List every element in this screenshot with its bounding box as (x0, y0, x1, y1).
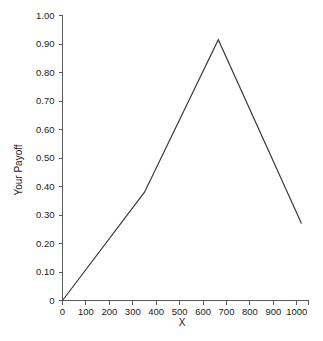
x-axis-tick-label: 300 (125, 306, 141, 317)
x-axis-tick-label: 400 (148, 306, 164, 317)
y-axis-title: Your Payoff (13, 144, 24, 195)
payoff-line (63, 40, 302, 301)
x-axis: 01002003004005006007008009001000 (60, 301, 309, 317)
chart-canvas: 00.100.200.300.400.500.600.700.800.901.0… (0, 0, 323, 341)
y-axis-tick-label: 0.10 (36, 266, 55, 277)
x-axis-tick-label: 800 (242, 306, 258, 317)
x-axis-tick-label: 200 (101, 306, 117, 317)
y-axis-tick-label: 0.90 (36, 38, 55, 49)
y-axis-tick-label: 0.80 (36, 67, 55, 78)
y-axis-tick-label: 0.60 (36, 124, 55, 135)
y-axis-tick-label: 0.40 (36, 181, 55, 192)
x-axis-tick-label: 0 (60, 306, 65, 317)
y-axis: 00.100.200.300.400.500.600.700.800.901.0… (36, 10, 63, 306)
y-axis-tick-label: 0.20 (36, 238, 55, 249)
y-axis-tick-label: 1.00 (36, 10, 55, 21)
x-axis-tick-label: 700 (219, 306, 235, 317)
payoff-chart-figure: 00.100.200.300.400.500.600.700.800.901.0… (0, 0, 323, 341)
x-axis-tick-label: 900 (265, 306, 281, 317)
data-series-group (63, 40, 302, 301)
x-axis-title: X (179, 317, 186, 328)
y-axis-tick-label: 0.70 (36, 95, 55, 106)
x-axis-tick-label: 500 (172, 306, 188, 317)
x-axis-tick-label: 100 (78, 306, 94, 317)
x-axis-tick-label: 1000 (286, 306, 307, 317)
y-axis-tick-label: 0.50 (36, 152, 55, 163)
x-axis-tick-label: 600 (195, 306, 211, 317)
y-axis-tick-label: 0 (49, 295, 54, 306)
y-axis-tick-label: 0.30 (36, 209, 55, 220)
